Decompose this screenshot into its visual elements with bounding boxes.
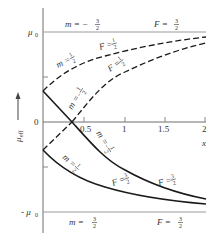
svg-text:2: 2 <box>96 25 99 31</box>
svg-text:2: 2 <box>179 223 182 229</box>
y-tick-label-mu0: μ 0 <box>27 27 38 38</box>
chart: 0.5 1 1.5 2 x 0 μ 0 - μ 0 μ eff m = − 3 … <box>0 0 219 242</box>
svg-text:2: 2 <box>172 180 176 187</box>
annotation-upper-solid-m: m = − 1 2 <box>93 128 117 155</box>
svg-text:3: 3 <box>170 173 174 180</box>
y-tick-label-zero: 0 <box>34 117 39 127</box>
svg-text:2: 2 <box>175 25 178 31</box>
annotation-lower-solid-F: F = 3 2 <box>109 171 131 190</box>
x-axis-label: x <box>201 138 206 148</box>
svg-text:F =: F = <box>156 217 171 227</box>
svg-text:0: 0 <box>35 212 38 218</box>
x-tick-label-1.5: 1.5 <box>158 124 170 134</box>
svg-text:3: 3 <box>93 216 96 222</box>
svg-text:μ: μ <box>27 27 33 37</box>
label-bottom-m: m = 3 2 <box>69 216 97 229</box>
label-top-m: m = − 3 2 <box>65 18 100 31</box>
svg-text:3: 3 <box>179 216 182 222</box>
label-bottom-F: F = 3 2 <box>156 216 183 229</box>
svg-text:m = −: m = − <box>65 19 88 29</box>
svg-text:3: 3 <box>175 18 178 24</box>
svg-text:m =: m = <box>69 217 84 227</box>
curve-dashed-m-neg-half-F-half <box>72 43 206 122</box>
svg-text:F =: F = <box>153 19 168 29</box>
curve-dashed-low-segment <box>43 122 72 150</box>
x-tick-label-1: 1 <box>122 124 127 134</box>
annotation-lower-solid-m: m = 1 2 <box>59 151 83 174</box>
y-axis-label: μ eff <box>13 130 24 143</box>
svg-text:eff: eff <box>18 130 24 137</box>
annotation-upper-dashed-F: F = 1 2 <box>97 37 119 54</box>
arrow-up-icon <box>16 92 21 99</box>
svg-text:2: 2 <box>113 44 117 51</box>
svg-text:2: 2 <box>81 89 88 95</box>
svg-text:3: 3 <box>123 172 128 179</box>
svg-text:2: 2 <box>93 223 96 229</box>
label-top-F: F = 3 2 <box>153 18 179 31</box>
svg-text:0: 0 <box>35 32 38 38</box>
annotation-upper-solid-F: F = 3 2 <box>156 173 178 190</box>
svg-text:3: 3 <box>96 18 99 24</box>
svg-text:2: 2 <box>125 178 130 185</box>
svg-text:2: 2 <box>103 149 110 155</box>
y-tick-label-neg-mu0: - μ 0 <box>21 207 38 218</box>
x-tick-label-2: 2 <box>202 124 207 134</box>
svg-text:1: 1 <box>111 37 115 44</box>
svg-text:- μ: - μ <box>21 207 31 217</box>
annotation-lower-dashed-m: m = − 1 2 <box>64 85 88 112</box>
svg-text:2: 2 <box>71 57 76 64</box>
